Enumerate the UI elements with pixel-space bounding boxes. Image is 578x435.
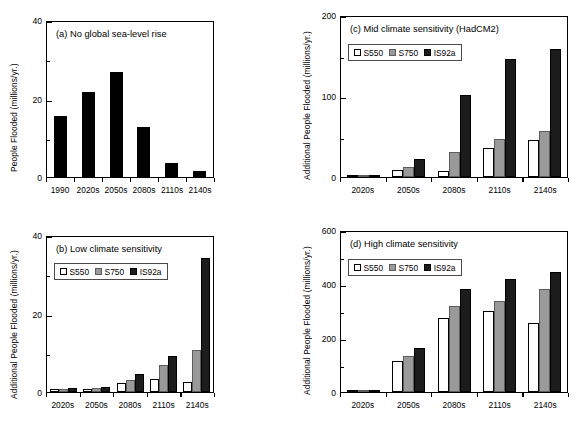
panel-a-ytick-label: 0 [24, 173, 42, 183]
bar-s550-2050s [83, 389, 92, 392]
panel-d-title: (d) High climate sensitivity [350, 239, 458, 249]
legend-label-s750: S750 [399, 263, 419, 273]
panel-c-bars [341, 17, 567, 177]
panel-b-xtickmark [180, 393, 181, 397]
panel-d-plot-area [340, 231, 568, 393]
panel-b-bar-group-2140s [180, 237, 213, 392]
panel-d-xtick-label: 2140s [522, 400, 568, 410]
panel-d-ytick-label: 200 [308, 334, 336, 344]
panel-d-y-axis-label: Additional People Flooded (millions/yr.) [302, 225, 312, 395]
panel-a-title: (a) No global sea-level rise [56, 29, 167, 39]
panel-b-bar-group-2080s [113, 237, 146, 392]
panel-b-legend: S550 S750 IS92a [54, 263, 168, 280]
panel-c-xtickmark [431, 178, 432, 182]
legend-label-s750: S750 [105, 267, 125, 277]
legend-swatch-s550-icon [354, 264, 361, 271]
bar-2050s [110, 72, 123, 177]
panel-c-xtickmark [386, 178, 387, 182]
panel-b-xtickmark [80, 393, 81, 397]
bar-is92a-2110s [505, 279, 516, 392]
panel-d-bars [341, 232, 567, 392]
bar-is92a-2050s [101, 387, 110, 392]
panel-b-xtickmark [46, 393, 47, 397]
bar-2080s [137, 127, 150, 177]
bar-s550-2110s [483, 148, 494, 177]
panel-a-ytick-label: 20 [24, 95, 42, 105]
bar-s550-2050s [392, 170, 403, 177]
panel-d-bar-group-2050s [386, 232, 431, 392]
bar-2020s [82, 92, 95, 177]
panel-c-xtickmark [477, 178, 478, 182]
panel-d-bar-group-2140s [522, 232, 567, 392]
panel-b-xtickmark [214, 393, 215, 397]
panel-b: Additional People Flooded (millions/yr.)… [0, 215, 290, 435]
bar-is92a-2080s [135, 374, 144, 392]
bar-s750-2110s [494, 301, 505, 392]
legend-swatch-s550-icon [60, 268, 67, 275]
bar-s550-2140s [528, 323, 539, 392]
legend-item-is92a: IS92a [130, 267, 161, 277]
panel-d-legend: S550 S750 IS92a [348, 259, 462, 276]
bar-is92a-2020s [68, 388, 77, 392]
panel-c-ytick-label: 200 [312, 11, 336, 21]
panel-a-xtickmark [214, 178, 215, 182]
figure-root: People Flooded (millions/yr.) 40 20 0 [0, 0, 578, 435]
panel-c-xtickmark [340, 178, 341, 182]
panel-d-ytick-label: 400 [308, 280, 336, 290]
bar-s550-2080s [117, 383, 126, 392]
panel-c-title: (c) Mid climate sensitivity (HadCM2) [350, 24, 499, 34]
bar-s750-2140s [539, 131, 550, 177]
panel-c-xtickmark [522, 178, 523, 182]
panel-a-xtick-label: 2110s [158, 185, 186, 195]
bar-s550-2140s [528, 140, 539, 177]
panel-c-bar-group-2050s [386, 17, 431, 177]
legend-item-s750: S750 [95, 267, 124, 277]
panel-a-xtickmark [74, 178, 75, 182]
legend-item-s550: S550 [354, 263, 383, 273]
panel-a-xtick-label: 2050s [102, 185, 130, 195]
legend-item-s750: S750 [389, 48, 418, 58]
bar-s550-2080s [438, 318, 449, 392]
panel-b-ytick-label: 40 [24, 231, 42, 241]
panel-b-bar-group-2020s [47, 237, 80, 392]
panel-a-bar-group [75, 22, 103, 177]
panel-a-xtickmark [158, 178, 159, 182]
panel-c-plot-area [340, 16, 568, 178]
legend-label-is92a: IS92a [434, 48, 456, 58]
panel-c-xtick-label: 2050s [386, 185, 432, 195]
legend-item-is92a: IS92a [424, 263, 455, 273]
panel-c-xtick-label: 2140s [522, 185, 568, 195]
bar-is92a-2050s [414, 348, 425, 392]
bar-s550-2050s [392, 361, 403, 392]
legend-swatch-s750-icon [389, 49, 396, 56]
panel-b-xtick-label: 2080s [113, 400, 147, 410]
panel-d-bar-group-2020s [341, 232, 386, 392]
panel-a-xtickmark [186, 178, 187, 182]
panel-d-xtick-label: 2110s [477, 400, 523, 410]
panel-d-ytick-label: 0 [308, 388, 336, 398]
legend-label-s750: S750 [399, 48, 419, 58]
panel-d-xtickmark [340, 393, 341, 397]
bar-s750-2080s [449, 306, 460, 392]
panel-b-ytick-label: 0 [24, 388, 42, 398]
panel-c-xtick-label: 2080s [431, 185, 477, 195]
panel-b-xtickmark [147, 393, 148, 397]
panel-d-xtickmark [477, 393, 478, 397]
panel-a-y-axis-label: People Flooded (millions/yr.) [9, 22, 19, 172]
panel-c-bar-group-2020s [341, 17, 386, 177]
panel-a-bar-group [130, 22, 158, 177]
bar-is92a-2080s [460, 95, 471, 177]
panel-b-bars [47, 237, 213, 392]
legend-label-s550: S550 [364, 48, 384, 58]
bar-s550-2110s [150, 379, 159, 392]
legend-label-s550: S550 [364, 263, 384, 273]
bar-s550-2020s [50, 389, 59, 392]
legend-swatch-s550-icon [354, 49, 361, 56]
legend-label-is92a: IS92a [140, 267, 162, 277]
panel-a-xtickmark [102, 178, 103, 182]
legend-swatch-s750-icon [389, 264, 396, 271]
panel-b-xtick-label: 2050s [80, 400, 114, 410]
panel-c-legend: S550 S750 IS92a [348, 44, 462, 61]
bar-s750-2020s [358, 175, 369, 177]
panel-c-bar-group-2140s [522, 17, 567, 177]
